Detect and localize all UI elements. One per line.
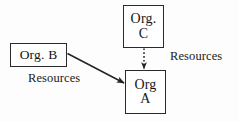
node-org-c-line2: C <box>139 27 149 41</box>
node-org-a-line2: A <box>140 92 150 106</box>
diagram-canvas: Org. C Org. B Org A Resources Resources <box>0 0 239 122</box>
node-org-c[interactable]: Org. C <box>123 5 164 48</box>
node-org-a[interactable]: Org A <box>125 70 166 114</box>
node-org-b[interactable]: Org. B <box>10 43 67 67</box>
node-org-a-line1: Org <box>134 78 156 92</box>
node-org-b-line1: Org. B <box>20 48 58 62</box>
edge-label-resources-right: Resources <box>170 49 222 64</box>
node-org-c-line1: Org. <box>131 12 157 26</box>
edge-label-resources-left: Resources <box>28 71 80 86</box>
